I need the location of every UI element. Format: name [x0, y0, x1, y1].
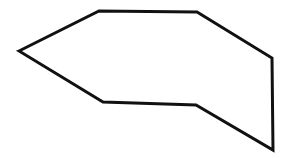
irregular-heptagon-outline — [19, 11, 273, 150]
figure-canvas — [0, 0, 292, 158]
polygon-figure-svg — [0, 0, 292, 158]
